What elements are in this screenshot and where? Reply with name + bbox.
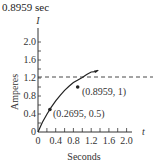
svg-text:1.2: 1.2 — [85, 135, 98, 146]
x-tick-labels: 0 0.4 0.8 1.2 1.6 2.0 — [36, 135, 133, 146]
x-ticks — [47, 128, 127, 132]
y-axis-variable: I — [35, 15, 40, 26]
svg-text:0.4: 0.4 — [49, 135, 62, 146]
svg-text:0.4: 0.4 — [24, 108, 37, 119]
current-curve — [38, 70, 98, 132]
svg-text:0: 0 — [36, 135, 41, 146]
y-tick-labels: 0 0.4 0.8 1.2 1.6 2.0 — [24, 36, 37, 137]
point-label-1: (0.2695, 0.5) — [53, 108, 105, 120]
svg-text:0.8: 0.8 — [67, 135, 80, 146]
svg-text:1.6: 1.6 — [24, 54, 37, 65]
point-0-2695 — [48, 108, 52, 112]
point-0-8959 — [76, 85, 80, 89]
chart-canvas: 0 0.4 0.8 1.2 1.6 2.0 0 0.4 0.8 1.2 1.6 … — [0, 0, 163, 166]
svg-text:0.8: 0.8 — [24, 90, 37, 101]
svg-text:1.2: 1.2 — [24, 72, 37, 83]
y-axis-title: Amperes — [9, 74, 20, 110]
x-axis-variable: t — [142, 126, 145, 137]
point-label-2: (0.8959, 1) — [82, 86, 126, 98]
svg-text:2.0: 2.0 — [120, 135, 133, 146]
svg-text:1.6: 1.6 — [103, 135, 116, 146]
curve-arrowhead — [94, 70, 99, 73]
x-axis-title: Seconds — [67, 151, 100, 162]
svg-text:2.0: 2.0 — [24, 36, 37, 47]
